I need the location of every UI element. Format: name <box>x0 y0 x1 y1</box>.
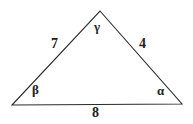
side-label-base: 8 <box>92 106 99 120</box>
side-label-left: 7 <box>51 37 58 51</box>
side-label-right: 4 <box>139 37 146 51</box>
angle-label-gamma: γ <box>94 20 100 33</box>
angle-label-alpha: α <box>157 84 164 97</box>
angle-label-beta: β <box>32 83 39 96</box>
triangle-figure: 7 4 8 γ β α <box>0 0 193 124</box>
